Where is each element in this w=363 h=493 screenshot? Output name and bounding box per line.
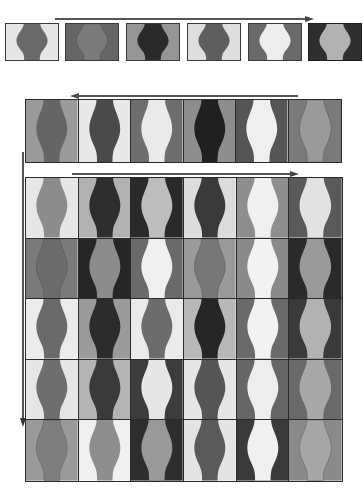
row1-tile-4	[187, 23, 241, 61]
row2-tile-2	[79, 100, 132, 162]
grid-tile-r1-c5	[237, 178, 290, 239]
grid-tile-r4-c6	[289, 360, 342, 421]
grid-tile-r2-c2	[79, 239, 132, 300]
grid-tile-r4-c4	[184, 360, 237, 421]
row2-tile-6	[289, 100, 342, 162]
row1-tile-3	[126, 23, 180, 61]
row1-tile-5	[248, 23, 302, 61]
grid-tile-r1-c2	[79, 178, 132, 239]
grid-tile-r2-c6	[289, 239, 342, 300]
grid-tile-r3-c1	[26, 299, 79, 360]
grid-tile-r5-c1	[26, 420, 79, 481]
grid-arrow-right-icon	[72, 172, 300, 176]
grid-tile-r4-c3	[131, 360, 184, 421]
grid-tile-r3-c5	[237, 299, 290, 360]
grid-tile-r2-c4	[184, 239, 237, 300]
grid-tile-r1-c6	[289, 178, 342, 239]
grid-tile-r5-c6	[289, 420, 342, 481]
row2-arrow-left-icon	[70, 94, 298, 98]
grid-tile-r1-c3	[131, 178, 184, 239]
tile-grid	[25, 177, 343, 482]
row2-tile-4	[184, 100, 237, 162]
grid-tile-r1-c4	[184, 178, 237, 239]
grid-tile-r4-c2	[79, 360, 132, 421]
grid-tile-r3-c4	[184, 299, 237, 360]
row2-tile-5	[236, 100, 289, 162]
grid-tile-r4-c1	[26, 360, 79, 421]
row1-tile-6	[308, 23, 362, 61]
row2-strip	[25, 99, 342, 163]
grid-tile-r5-c4	[184, 420, 237, 481]
grid-tile-r2-c1	[26, 239, 79, 300]
grid-tile-r3-c3	[131, 299, 184, 360]
grid-tile-r1-c1	[26, 178, 79, 239]
grid-tile-r2-c5	[237, 239, 290, 300]
row2-tile-3	[131, 100, 184, 162]
grid-tile-r3-c6	[289, 299, 342, 360]
row2-tile-1	[26, 100, 79, 162]
grid-tile-r3-c2	[79, 299, 132, 360]
grid-tile-r4-c5	[237, 360, 290, 421]
row1-tile-1	[5, 23, 59, 61]
row1-tile-2	[65, 23, 119, 61]
grid-tile-r2-c3	[131, 239, 184, 300]
row1-arrow-right-icon	[55, 17, 315, 21]
grid-tile-r5-c3	[131, 420, 184, 481]
grid-tile-r5-c2	[79, 420, 132, 481]
grid-tile-r5-c5	[237, 420, 290, 481]
